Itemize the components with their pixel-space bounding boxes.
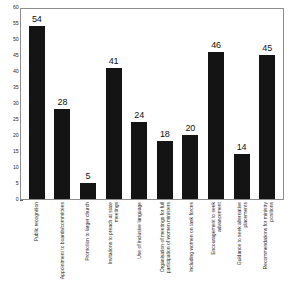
x-axis-label-slot: Promotion to larger church — [75, 200, 101, 286]
x-axis-category-label: Invitations to preach at state meetings — [107, 202, 119, 284]
x-axis-category-label: Promotion to larger church — [84, 202, 90, 284]
bar-rect[interactable] — [29, 26, 45, 199]
x-axis-category-label: Including women on task forces — [188, 202, 194, 284]
bar-item[interactable]: 54 — [24, 9, 50, 199]
x-axis-category-label: Use of inclusive language — [136, 202, 142, 284]
bar-rect[interactable] — [234, 154, 250, 199]
x-axis-label-slot: Invitations to preach at state meetings — [100, 200, 126, 286]
y-axis-tick-label: 20 — [13, 133, 20, 138]
x-axis-label-slot: Encouragement to seek advancement — [204, 200, 230, 286]
bar-rect[interactable] — [259, 55, 275, 199]
x-axis-label-slot: Recommendations for ministry positions — [255, 200, 281, 286]
x-axis-label-slot: Including women on task forces — [178, 200, 204, 286]
bar-item[interactable]: 18 — [152, 9, 178, 199]
bar-rect[interactable] — [106, 68, 122, 199]
bar-rect[interactable] — [131, 122, 147, 199]
x-axis-category-labels: Public recognitionAppointment to boards/… — [20, 200, 284, 286]
bar-rect[interactable] — [80, 183, 96, 199]
bar-item[interactable]: 20 — [178, 9, 204, 199]
bar-value-label: 5 — [86, 171, 91, 182]
bar-item[interactable]: 46 — [203, 9, 229, 199]
bar-rect[interactable] — [208, 52, 224, 199]
bar-item[interactable]: 45 — [254, 9, 280, 199]
y-axis-tick-label: 25 — [13, 117, 20, 122]
bar-value-label: 18 — [160, 129, 170, 140]
x-axis-category-label: Encouragement to seek advancement — [210, 202, 222, 284]
y-axis-tick-label: 45 — [13, 53, 20, 58]
y-axis-tick-label: 50 — [13, 37, 20, 42]
bar-value-label: 20 — [186, 123, 196, 134]
y-axis: 051015202530354045505560 — [0, 8, 20, 200]
y-axis-tick-label: 55 — [13, 21, 20, 26]
y-axis-tick-label: 30 — [13, 101, 20, 106]
bar-value-label: 45 — [262, 43, 272, 54]
x-axis-category-label: Public recognition — [33, 202, 39, 284]
bar-value-label: 24 — [134, 110, 144, 121]
bar-value-label: 41 — [109, 56, 119, 67]
y-axis-tick-label: 35 — [13, 85, 20, 90]
bar-value-label: 46 — [211, 40, 221, 51]
bar-rect[interactable] — [157, 141, 173, 199]
x-axis-label-slot: Appointment to boards/committees — [49, 200, 75, 286]
x-axis-label-slot: Organisation of meetings for full partic… — [152, 200, 178, 286]
bar-series: 5428541241820461445 — [21, 9, 283, 199]
y-axis-tick-label: 10 — [13, 165, 20, 170]
bar-chart: 051015202530354045505560 542854124182046… — [0, 0, 290, 286]
y-axis-tick-label: 40 — [13, 69, 20, 74]
y-axis-tick-label: 15 — [13, 149, 20, 154]
bar-rect[interactable] — [182, 135, 198, 199]
x-axis-category-label: Recommendations for ministry positions — [262, 202, 274, 284]
x-axis-category-label: Organisation of meetings for full partic… — [159, 202, 171, 284]
x-axis-category-label: Guidance to seek alternative placements — [236, 202, 248, 284]
x-axis-label-slot: Public recognition — [23, 200, 49, 286]
bar-item[interactable]: 41 — [101, 9, 127, 199]
bar-value-label: 54 — [32, 14, 42, 25]
bar-value-label: 14 — [237, 142, 247, 153]
x-axis-category-label: Appointment to boards/committees — [59, 202, 65, 284]
x-axis-label-slot: Use of inclusive language — [126, 200, 152, 286]
y-axis-tick-label: 60 — [13, 5, 20, 10]
bar-value-label: 28 — [58, 97, 68, 108]
x-axis-label-slot: Guidance to seek alternative placements — [229, 200, 255, 286]
bar-item[interactable]: 28 — [50, 9, 76, 199]
bar-item[interactable]: 14 — [229, 9, 255, 199]
plot-area: 5428541241820461445 — [20, 8, 284, 200]
bar-item[interactable]: 5 — [75, 9, 101, 199]
bar-item[interactable]: 24 — [126, 9, 152, 199]
bar-rect[interactable] — [54, 109, 70, 199]
